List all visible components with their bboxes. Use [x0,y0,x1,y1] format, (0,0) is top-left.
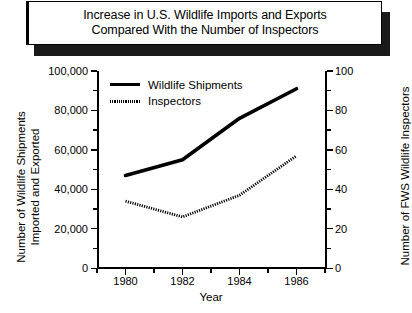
legend-swatch-solid-line-icon [110,79,140,90]
series-line-inspectors [126,156,297,217]
legend-item-inspectors: Inspectors [110,94,243,107]
legend-label-wildlife-shipments: Wildlife Shipments [148,79,243,91]
chart-title-line-2: Compared With the Number of Inspectors [92,23,319,38]
chart-area: 020,00040,00060,00080,000100,00002040608… [0,60,412,313]
legend-swatch-dotted-line-icon [110,95,140,106]
chart-title-box: Increase in U.S. Wildlife Imports and Ex… [26,1,382,45]
chart-legend: Wildlife Shipments Inspectors [110,78,243,110]
legend-item-wildlife-shipments: Wildlife Shipments [110,78,243,91]
legend-label-inspectors: Inspectors [148,95,201,107]
chart-title-line-1: Increase in U.S. Wildlife Imports and Ex… [83,8,327,23]
